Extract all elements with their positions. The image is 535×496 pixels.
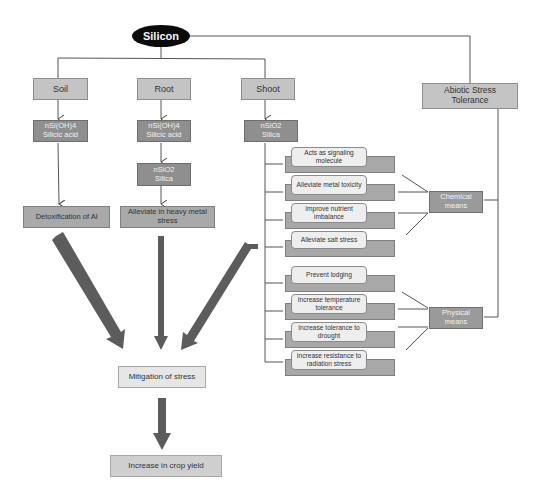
soil-silicic-acid-node: nSi(OH)4 Silicic acid: [33, 120, 88, 142]
effect-label: Alleviate metal toxicity: [297, 181, 362, 189]
shoot-silica-node: nSiO2 Silica: [244, 120, 298, 142]
root-silica-node: nSiO2 Silica: [137, 163, 191, 186]
compound-label: Silicic acid: [146, 131, 181, 140]
chemical-means-node: Chemical means: [429, 191, 483, 213]
effect-label: Improve nutrient imbalance: [294, 205, 364, 220]
crop-yield-label: Increase in crop yield: [128, 461, 204, 470]
effect-item: Increase resistance to radiation stress: [291, 350, 367, 370]
effect-item: Increase tolerance to drought: [291, 322, 367, 342]
effect-item: Prevent lodging: [291, 266, 367, 284]
effect-item: Alleviate salt stress: [291, 231, 367, 249]
physical-means-label: Physical means: [436, 309, 476, 326]
mitigation-node: Mitigation of stress: [118, 366, 206, 388]
compound-label: Silica: [155, 175, 173, 184]
crop-yield-node: Increase in crop yield: [110, 455, 222, 477]
connector-lines: [0, 0, 535, 496]
abiotic-stress-label: Abiotic Stress Tolerance: [437, 86, 503, 106]
effect-item: Improve nutrient imbalance: [291, 203, 367, 223]
physical-means-node: Physical means: [429, 307, 483, 329]
effect-label: Increase tolerance to drought: [294, 324, 364, 339]
root-node: Root: [137, 78, 191, 100]
effect-label: Acts as signaling molecule: [294, 149, 364, 164]
detoxification-node: Detoxification of Al: [23, 206, 110, 228]
silicon-node: Silicon: [132, 25, 190, 47]
root-silicic-acid-node: nSi(OH)4 Silicic acid: [137, 120, 191, 142]
compound-label: Silicic acid: [43, 131, 78, 140]
thick-arrows: [52, 232, 258, 450]
silicon-label: Silicon: [143, 30, 179, 43]
mitigation-label: Mitigation of stress: [129, 372, 196, 381]
shoot-label: Shoot: [256, 84, 280, 94]
shoot-node: Shoot: [241, 78, 295, 100]
detoxification-label: Detoxification of Al: [36, 213, 98, 222]
effect-item: Increase temperature tolerance: [291, 294, 367, 314]
effect-item: Acts as signaling molecule: [291, 147, 367, 167]
soil-node: Soil: [33, 78, 88, 100]
heavy-metal-node: Alleviate in heavy metal stress: [120, 206, 215, 228]
compound-label: Silica: [262, 131, 280, 140]
effect-label: Increase resistance to radiation stress: [294, 352, 364, 367]
effect-label: Increase temperature tolerance: [294, 296, 364, 311]
root-label: Root: [154, 84, 173, 94]
effect-label: Prevent lodging: [306, 271, 352, 279]
effect-label: Alleviate salt stress: [301, 236, 357, 244]
heavy-metal-label: Alleviate in heavy metal stress: [127, 208, 208, 225]
effect-item: Alleviate metal toxicity: [291, 175, 367, 195]
soil-label: Soil: [53, 84, 68, 94]
chemical-means-label: Chemical means: [436, 193, 476, 210]
abiotic-stress-node: Abiotic Stress Tolerance: [422, 83, 518, 109]
